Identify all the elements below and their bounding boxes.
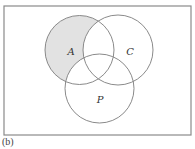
- venn-diagram: A C P: [0, 0, 195, 149]
- figure-caption: (b): [2, 137, 14, 147]
- set-a-label: A: [66, 46, 74, 57]
- set-p-label: P: [96, 94, 104, 105]
- set-c-label: C: [126, 46, 134, 57]
